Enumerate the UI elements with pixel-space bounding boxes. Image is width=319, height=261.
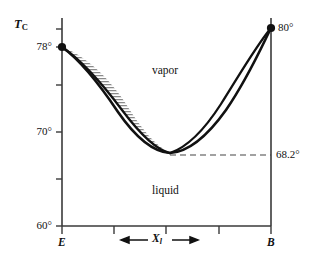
x-axis-label-left: E bbox=[58, 237, 66, 249]
azeotrope-temperature-label: 68.2° bbox=[276, 149, 300, 160]
y-axis-title: TC bbox=[14, 18, 28, 31]
region-label-liquid: liquid bbox=[152, 185, 179, 197]
x-axis-label-right: B bbox=[267, 237, 275, 249]
y-axis-ticks bbox=[56, 29, 62, 226]
liquid-curve bbox=[62, 28, 271, 153]
endpoint-dot-left bbox=[58, 43, 66, 51]
endpoint-label-right: 80° bbox=[278, 22, 293, 33]
endpoint-dot-right bbox=[267, 24, 275, 32]
y-tick-label-78: 78° bbox=[10, 41, 52, 52]
x-axis-variable-label: Xl bbox=[152, 233, 162, 245]
y-tick-label-60: 60° bbox=[10, 220, 52, 231]
x-axis-ticks bbox=[62, 226, 271, 234]
y-tick-label-70: 70° bbox=[10, 126, 52, 137]
region-label-vapor: vapor bbox=[152, 65, 178, 77]
